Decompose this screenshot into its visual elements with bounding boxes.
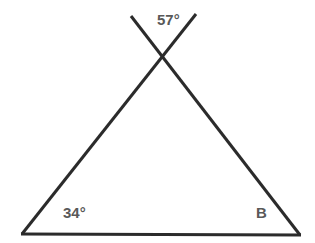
bottom-left-angle-label: 34° [63,204,86,221]
bottom-right-angle-label: B [256,204,267,221]
line-right-to-bottom-left [22,14,196,234]
line-left-to-bottom-right [131,16,300,235]
triangle-base [21,234,301,235]
top-angle-label: 57° [157,11,180,28]
triangle-diagram: 57° 34° B [0,0,315,243]
